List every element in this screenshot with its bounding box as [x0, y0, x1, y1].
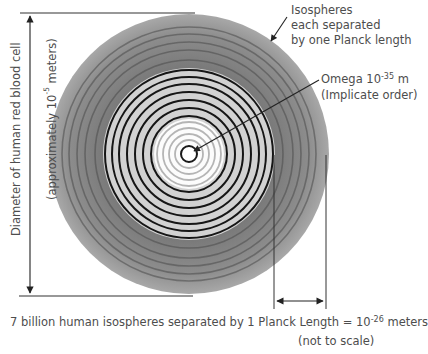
isospheres-label-line1: Isospheres: [291, 3, 412, 18]
approx-exponent: -5: [42, 87, 51, 94]
approx-suffix: meters): [45, 38, 59, 87]
isospheres-label: Isospheres each separated by one Planck …: [291, 3, 412, 48]
isospheres-pointer-arrow: [271, 17, 287, 41]
isospheres-label-line2: each separated: [291, 18, 412, 33]
approx-label: (approximately 10-5 meters): [45, 38, 59, 200]
scale-note: (not to scale): [298, 334, 374, 349]
approx-prefix: (approximately 10: [45, 95, 59, 200]
bottom-caption: 7 billion human isospheres separated by …: [10, 315, 428, 330]
omega-unit: m: [394, 72, 409, 86]
bottom-caption-exponent: -26: [371, 315, 384, 324]
omega-prefix: Omega 10: [321, 72, 381, 86]
bottom-caption-suffix: meters: [384, 315, 428, 329]
omega-label: Omega 10-35 m (Implicate order): [321, 72, 418, 103]
omega-exponent: -35: [381, 72, 394, 81]
omega-center-ring: [181, 146, 197, 162]
omega-label-line1: Omega 10-35 m: [321, 72, 418, 87]
isospheres-label-line3: by one Planck length: [291, 33, 412, 48]
bottom-caption-prefix: 7 billion human isospheres separated by …: [10, 315, 371, 329]
diameter-label: Diameter of human red blood cell: [9, 42, 23, 236]
omega-note: (Implicate order): [321, 88, 418, 103]
